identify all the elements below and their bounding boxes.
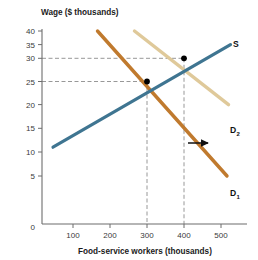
y-axis-title: Wage ($ thousands) [41, 8, 119, 17]
y-tick-label-20: 20 [26, 101, 35, 110]
y-tick-label-0: 0 [31, 223, 36, 232]
x-tick-label-500: 500 [214, 231, 228, 240]
y-tick-labels: 40 35 30 25 20 15 10 5 0 [26, 27, 35, 232]
economics-supply-demand-chart: Wage ($ thousands) [0, 0, 258, 260]
y-tick-label-30: 30 [26, 54, 35, 63]
x-tick-label-200: 200 [103, 231, 117, 240]
x-axis-title: Food-service workers (thousands) [78, 247, 212, 256]
demand-curve-d1-label: D [230, 188, 236, 198]
supply-curve-s [53, 45, 231, 148]
chart-canvas: Wage ($ thousands) [0, 0, 258, 260]
x-tick-labels: 100 200 300 400 500 [66, 231, 228, 240]
initial-equilibrium-point [144, 79, 150, 85]
x-tick-label-100: 100 [66, 231, 80, 240]
supply-curve-label: S [233, 39, 239, 49]
demand-curve-d1-sublabel: 1 [237, 194, 241, 200]
axes [38, 29, 247, 228]
y-tick-label-5: 5 [31, 172, 36, 181]
y-tick-label-35: 35 [26, 41, 35, 50]
demand-curve-d2-label: D [230, 125, 236, 135]
y-tick-label-10: 10 [26, 148, 35, 157]
x-tick-label-400: 400 [177, 231, 191, 240]
x-tick-label-300: 300 [140, 231, 154, 240]
y-tick-label-40: 40 [26, 27, 35, 36]
y-tick-label-25: 25 [26, 78, 35, 87]
y-tick-label-15: 15 [26, 124, 35, 133]
demand-curve-d2-sublabel: 2 [237, 131, 241, 137]
new-equilibrium-point [181, 55, 187, 61]
